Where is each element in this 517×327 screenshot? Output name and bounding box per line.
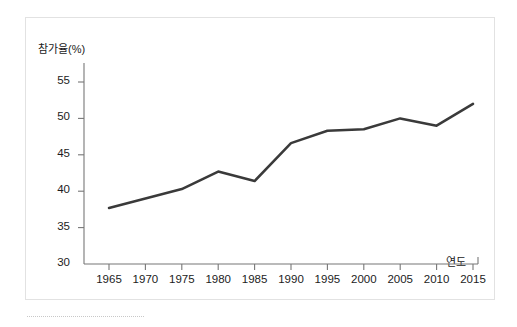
x-tick-label: 1965 [89,273,129,285]
x-tick-label: 1985 [235,273,275,285]
y-tick-label: 35 [44,220,70,232]
chart-tick-marks [78,82,473,270]
x-tick-label: 2010 [417,273,457,285]
x-tick-label: 1980 [198,273,238,285]
x-tick-label: 1995 [307,273,347,285]
y-tick-label: 40 [44,183,70,195]
x-tick-label: 2000 [344,273,384,285]
chart-axes [84,63,478,264]
x-tick-label: 2015 [453,273,493,285]
x-tick-label: 2005 [380,273,420,285]
page-dotted-rule [27,316,144,317]
chart-figure: 참가율(%) 연도 555045403530 19651970197519801… [25,17,495,300]
y-tick-label: 30 [44,256,70,268]
y-tick-label: 55 [44,74,70,86]
y-tick-label: 50 [44,110,70,122]
participation-rate-line [109,104,473,208]
line-chart-plot [26,18,496,301]
y-tick-label: 45 [44,147,70,159]
x-tick-label: 1975 [162,273,202,285]
x-tick-label: 1970 [125,273,165,285]
x-tick-label: 1990 [271,273,311,285]
